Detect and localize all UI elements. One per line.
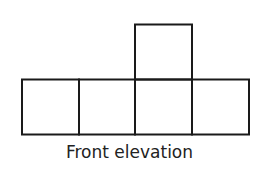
bottom-square-2	[79, 80, 135, 135]
diagram-caption: Front elevation	[0, 140, 259, 164]
bottom-square-4	[192, 80, 249, 135]
bottom-square-1	[22, 80, 79, 135]
top-square	[135, 25, 192, 80]
bottom-square-3	[135, 80, 192, 135]
